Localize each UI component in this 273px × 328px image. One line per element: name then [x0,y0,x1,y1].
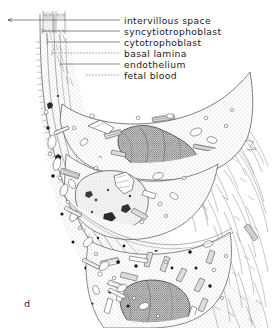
panel-letter: d [24,298,30,309]
figure-canvas: intervillous space syncytiotrophoblast c… [0,0,273,328]
label-intervillous-space: intervillous space [124,15,211,26]
label-syncytiotrophoblast: syncytiotrophoblast [124,26,221,37]
label-fetal-blood: fetal blood [124,70,177,81]
placental-barrier-figure: intervillous space syncytiotrophoblast c… [0,0,273,328]
label-endothelium: endothelium [124,59,186,70]
label-basal-lamina: basal lamina [124,48,187,59]
label-cytotrophoblast: cytotrophoblast [124,37,201,48]
